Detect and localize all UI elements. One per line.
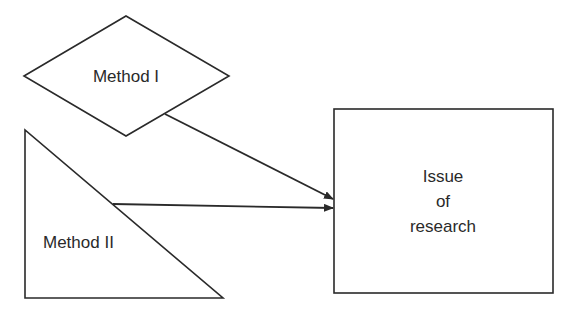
method-1-label: Method I bbox=[93, 67, 159, 86]
arrow-method-2-to-issue bbox=[113, 204, 333, 208]
method-2-label: Method II bbox=[43, 233, 114, 252]
triangle-shape bbox=[25, 130, 223, 298]
issue-node: Issue of research bbox=[334, 109, 553, 293]
arrow-method-1-to-issue bbox=[165, 114, 333, 199]
diagram-canvas: Method I Method II Issue of research bbox=[0, 0, 582, 314]
issue-label-line-2: of bbox=[436, 192, 450, 211]
method-2-node: Method II bbox=[25, 130, 223, 298]
issue-label-line-3: research bbox=[410, 217, 476, 236]
issue-label-line-1: Issue bbox=[423, 167, 464, 186]
method-1-node: Method I bbox=[24, 16, 229, 136]
